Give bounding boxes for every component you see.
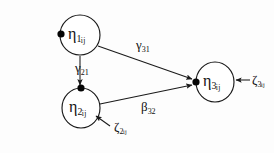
- disturbance-zeta3-label: ζ3ij: [252, 73, 265, 86]
- node-eta2-index: ij: [82, 109, 87, 118]
- junction-dot-eta3: [192, 78, 199, 85]
- node-eta1-label: η1ij: [68, 26, 86, 42]
- edge-beta32-label: β32: [141, 100, 156, 113]
- disturbance-zeta2-label: ζ2ij: [114, 120, 127, 133]
- edge-gamma31-label: γ31: [136, 38, 150, 51]
- disturbance-zeta2-index: ij: [123, 128, 127, 135]
- edge-gamma21-label: γ21: [75, 61, 89, 74]
- edge-gamma21-subscript: 21: [81, 68, 89, 77]
- junction-dot-eta1: [57, 30, 64, 37]
- edge-gamma31-symbol: γ: [136, 37, 142, 52]
- edge-gamma21-symbol: γ: [75, 60, 81, 75]
- edge-beta32-symbol: β: [141, 99, 148, 114]
- node-eta3-label: η3ij: [203, 73, 221, 89]
- disturbance-zeta2-arrow: [96, 116, 110, 126]
- edge-gamma31-subscript: 31: [142, 45, 150, 54]
- path-diagram: η1ij η2ij η3ij γ21 γ31 β32 ζ2ij ζ3ij: [0, 0, 274, 153]
- path-diagram-graphics: [0, 0, 274, 153]
- node-eta2-label: η2ij: [69, 99, 87, 115]
- edge-beta32-subscript: 32: [148, 107, 156, 116]
- node-eta1-index: ij: [81, 36, 86, 45]
- node-eta3-index: ij: [216, 83, 221, 92]
- disturbance-zeta3-index: ij: [261, 81, 265, 88]
- junction-dot-eta2: [77, 84, 84, 91]
